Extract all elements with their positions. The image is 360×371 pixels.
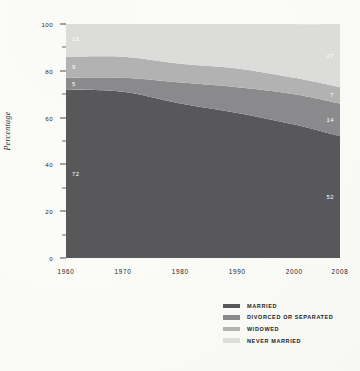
value-label-left-divorced-or-separated: 5 [72,81,76,87]
y-tick-label: 40 [45,161,53,168]
legend-swatch [223,304,240,309]
x-tick-label: 2008 [331,268,348,275]
legend: MARRIEDDIVORCED OR SEPARATEDWIDOWEDNEVER… [223,300,355,346]
x-tick-label: 1990 [229,268,246,275]
value-label-left-never-married: 15 [72,36,80,42]
x-tick-label: 2000 [286,268,303,275]
y-axis-title: Percentage [3,111,12,150]
area-bands [66,24,340,258]
x-tick-label: 1960 [57,268,74,275]
value-label-left-widowed: 9 [72,64,76,70]
legend-label: NEVER MARRIED [247,338,301,344]
legend-item-never-married: NEVER MARRIED [223,335,355,347]
value-label-right-divorced-or-separated: 14 [326,117,334,123]
y-tick-label: 80 [45,67,53,74]
y-tick-label: 60 [45,114,53,121]
x-tick-label: 1980 [172,268,189,275]
legend-item-divorced-or-separated: DIVORCED OR SEPARATED [223,312,355,324]
y-tick-label: 0 [49,255,53,262]
y-tick-label: 100 [41,21,53,28]
x-tick-label: 1970 [115,268,132,275]
legend-swatch [223,338,240,343]
legend-swatch [223,327,240,332]
value-label-left-married: 72 [72,171,80,177]
legend-item-married: MARRIED [223,300,355,312]
legend-item-widowed: WIDOWED [223,323,355,335]
plot-area [66,24,340,258]
legend-label: MARRIED [247,303,277,309]
value-label-right-widowed: 7 [330,92,334,98]
legend-swatch [223,315,240,320]
value-label-right-married: 52 [326,194,334,200]
legend-label: WIDOWED [247,326,279,332]
legend-label: DIVORCED OR SEPARATED [247,314,333,320]
y-tick-label: 20 [45,208,53,215]
value-label-right-never-married: 27 [326,53,334,59]
stacked-area-chart-figure: 020406080100 Percentage 1960197019801990… [0,0,360,371]
